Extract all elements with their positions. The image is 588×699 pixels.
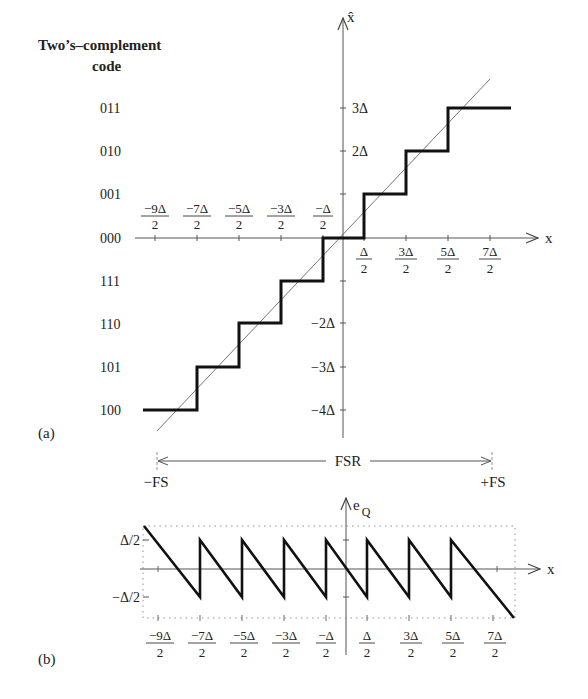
svg-text:2: 2 xyxy=(361,261,368,276)
svg-text:−7Δ: −7Δ xyxy=(186,201,208,216)
y-tick-neg3delta: −3Δ xyxy=(311,360,335,375)
svg-text:2: 2 xyxy=(241,645,248,660)
svg-text:3Δ: 3Δ xyxy=(399,244,414,259)
svg-text:2: 2 xyxy=(194,217,201,232)
svg-text:2: 2 xyxy=(408,645,415,660)
b-x-ticks xyxy=(158,566,497,621)
panel-a: Two’s–complement code 011 010 001 000 11… xyxy=(38,9,553,442)
b-x-axis-label: x xyxy=(547,561,555,577)
svg-text:2: 2 xyxy=(403,261,410,276)
code-labels: 011 010 001 000 111 110 101 100 xyxy=(100,101,121,418)
y-tick-2delta: 2Δ xyxy=(352,144,368,159)
neg-fs-label: −FS xyxy=(143,474,168,490)
svg-text:2: 2 xyxy=(445,261,452,276)
svg-text:2: 2 xyxy=(492,645,499,660)
fsr-label: FSR xyxy=(335,453,362,469)
panel-b: eQ x Δ/2 −Δ/2 −9Δ 2 xyxy=(38,497,555,668)
code-011: 011 xyxy=(100,101,120,116)
b-y-tick-half-delta: Δ/2 xyxy=(120,533,140,548)
svg-text:2: 2 xyxy=(323,645,330,660)
code-101: 101 xyxy=(100,360,121,375)
svg-text:−7Δ: −7Δ xyxy=(191,628,213,643)
svg-text:2: 2 xyxy=(364,645,371,660)
svg-text:2: 2 xyxy=(320,217,327,232)
svg-text:2: 2 xyxy=(199,645,206,660)
svg-text:−3Δ: −3Δ xyxy=(270,201,292,216)
y-tick-3delta: 3Δ xyxy=(352,101,368,116)
code-110: 110 xyxy=(100,317,120,332)
code-111: 111 xyxy=(100,274,120,289)
svg-text:2: 2 xyxy=(236,217,243,232)
panel-b-label: (b) xyxy=(38,651,56,668)
svg-text:Δ: Δ xyxy=(363,628,371,643)
eq-label: eQ xyxy=(353,497,371,519)
svg-text:7Δ: 7Δ xyxy=(488,628,503,643)
b-y-tick-neg-half-delta: −Δ/2 xyxy=(112,590,140,605)
svg-text:5Δ: 5Δ xyxy=(441,244,456,259)
code-000: 000 xyxy=(100,231,121,246)
x-tick-labels-pos: Δ 2 3Δ 2 5Δ 2 7Δ 2 xyxy=(356,244,501,276)
svg-text:−9Δ: −9Δ xyxy=(149,628,171,643)
code-001: 001 xyxy=(100,187,121,202)
svg-text:2: 2 xyxy=(283,645,290,660)
code-title-line2: code xyxy=(92,58,122,74)
b-x-tick-labels: −9Δ 2 −7Δ 2 −5Δ 2 −3Δ 2 −Δ 2 Δ 2 3Δ 2 5Δ… xyxy=(146,628,506,660)
svg-text:−5Δ: −5Δ xyxy=(228,201,250,216)
y-tick-neg4delta: −4Δ xyxy=(311,403,335,418)
quantizer-diagram: Two’s–complement code 011 010 001 000 11… xyxy=(0,0,588,699)
quantization-error-sawtooth xyxy=(144,526,514,618)
svg-text:−5Δ: −5Δ xyxy=(233,628,255,643)
svg-text:3Δ: 3Δ xyxy=(404,628,419,643)
svg-text:−Δ: −Δ xyxy=(315,201,331,216)
y-tick-neg2delta: −2Δ xyxy=(311,316,335,331)
svg-text:2: 2 xyxy=(157,645,164,660)
pos-fs-label: +FS xyxy=(480,474,505,490)
svg-text:2: 2 xyxy=(487,261,494,276)
x-tick-labels-neg: −9Δ 2 −7Δ 2 −5Δ 2 −3Δ 2 −Δ 2 xyxy=(141,201,333,232)
code-100: 100 xyxy=(100,403,121,418)
fsr-range: FSR −FS +FS xyxy=(143,452,505,490)
x-axis-label: x xyxy=(545,230,553,246)
svg-text:−9Δ: −9Δ xyxy=(144,201,166,216)
svg-text:7Δ: 7Δ xyxy=(483,244,498,259)
svg-text:2: 2 xyxy=(152,217,159,232)
svg-text:2: 2 xyxy=(450,645,457,660)
svg-text:−3Δ: −3Δ xyxy=(275,628,297,643)
x-hat-label: x̂ xyxy=(347,9,355,25)
svg-text:−Δ: −Δ xyxy=(318,628,334,643)
svg-text:2: 2 xyxy=(278,217,285,232)
svg-text:5Δ: 5Δ xyxy=(446,628,461,643)
svg-text:Δ: Δ xyxy=(360,244,368,259)
code-title-line1: Two’s–complement xyxy=(38,37,161,53)
panel-a-label: (a) xyxy=(38,425,55,442)
code-010: 010 xyxy=(100,144,121,159)
